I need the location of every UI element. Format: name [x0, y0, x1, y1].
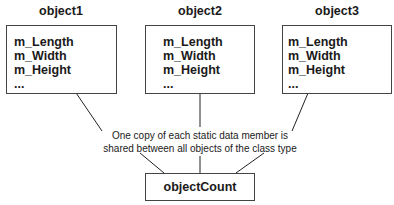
field: m_Length [288, 35, 348, 49]
field: ... [288, 77, 348, 91]
object2-title: object2 [145, 4, 255, 18]
field: m_Height [288, 63, 348, 77]
field: m_Width [163, 49, 223, 63]
field: ... [163, 77, 223, 91]
field: m_Length [163, 35, 223, 49]
static-member-box: objectCount [145, 173, 255, 201]
field: m_Width [14, 49, 74, 63]
field: m_Length [14, 35, 74, 49]
note-line-2: shared between all objects of the class … [100, 142, 300, 155]
shared-member-note: One copy of each static data member is s… [100, 129, 300, 155]
object1-box: m_Length m_Width m_Height ... [6, 25, 117, 94]
field: m_Width [288, 49, 348, 63]
field: m_Height [163, 63, 223, 77]
note-line-1: One copy of each static data member is [100, 129, 300, 142]
field: ... [14, 77, 74, 91]
object1-title: object1 [6, 4, 116, 18]
object3-box: m_Length m_Width m_Height ... [282, 25, 392, 94]
object2-box: m_Length m_Width m_Height ... [145, 25, 255, 94]
field: m_Height [14, 63, 74, 77]
object3-title: object3 [282, 4, 392, 18]
